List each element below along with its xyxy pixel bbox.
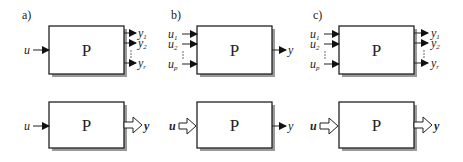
- panel-label-a: a): [22, 8, 31, 22]
- block-label: P: [230, 116, 239, 135]
- input-label-up: up: [168, 57, 178, 72]
- input-label-u-vector: u: [169, 119, 176, 133]
- panel-c-bottom-vector-input-output: P u y: [310, 102, 440, 151]
- ellipsis-dots-icon: [130, 50, 131, 57]
- panel-a-bottom-vector-output: P u y: [24, 102, 150, 151]
- panel-b-top-multi-input-single-output: P u1 u2 up y: [168, 26, 294, 77]
- ellipsis-dots-icon: [423, 50, 424, 57]
- output-label-y-vector: y: [432, 119, 440, 133]
- panel-label-c: c): [313, 8, 322, 22]
- output-label-yr: yr: [430, 56, 439, 71]
- block-diagram-figure: a) P u y1 y2 yr P u y: [0, 0, 463, 162]
- output-label-y: y: [287, 119, 294, 133]
- input-label-u-vector: u: [310, 119, 317, 133]
- panel-a-top-siso-to-multi-output: P u y1 y2 yr: [24, 26, 147, 77]
- panel-a: a) P u y1 y2 yr P u y: [22, 8, 150, 151]
- panel-b-bottom-vector-input: P u y: [169, 102, 294, 151]
- hollow-vector-arrow-icon: [320, 118, 338, 134]
- panel-c-top-multi-input-multi-output: P u1 u2 up y1 y2 yr: [310, 26, 440, 77]
- ellipsis-dots-icon: [182, 51, 183, 58]
- block-label: P: [372, 41, 381, 60]
- panel-b: b) P u1 u2 up y P u y: [168, 8, 294, 151]
- block-label: P: [82, 116, 91, 135]
- ellipsis-dots-icon: [324, 51, 325, 58]
- panel-label-b: b): [171, 8, 181, 22]
- block-label: P: [230, 41, 239, 60]
- output-label-y-vector: y: [142, 119, 150, 133]
- output-label-yr: yr: [137, 56, 146, 71]
- output-label-y: y: [287, 43, 294, 57]
- input-label-u: u: [24, 43, 30, 57]
- block-label: P: [372, 116, 381, 135]
- hollow-vector-arrow-icon: [179, 118, 196, 134]
- panel-c: c) P u1 u2 up y1 y2 yr: [310, 8, 440, 151]
- block-label: P: [82, 41, 91, 60]
- input-label-u: u: [24, 119, 30, 133]
- input-label-up: up: [310, 57, 320, 72]
